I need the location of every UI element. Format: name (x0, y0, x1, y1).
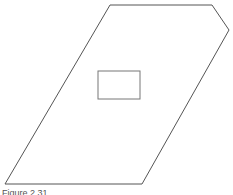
inner-rectangle (98, 71, 140, 99)
figure-canvas: Figure 2.31 (0, 0, 233, 195)
outer-parallelogram (5, 5, 229, 184)
diagram-svg (0, 0, 233, 195)
figure-caption: Figure 2.31 (2, 188, 48, 195)
